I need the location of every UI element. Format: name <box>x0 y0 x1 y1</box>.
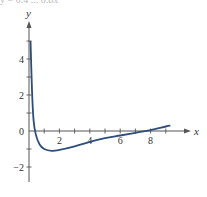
y-tick-label: 2 <box>19 90 24 101</box>
axes <box>27 21 192 182</box>
line-chart: xy246842−20 <box>0 0 207 197</box>
tick-marks <box>27 41 166 167</box>
y-axis-label: y <box>25 7 31 19</box>
origin-label: 0 <box>19 126 24 137</box>
y-tick-label: −2 <box>13 162 24 173</box>
y-tick-label: 4 <box>19 54 24 65</box>
x-tick-label: 8 <box>148 135 153 146</box>
y-axis-arrow-icon <box>27 21 32 28</box>
x-tick-label: 2 <box>57 135 62 146</box>
x-axis-label: x <box>193 125 199 137</box>
x-axis-arrow-icon <box>184 129 191 134</box>
